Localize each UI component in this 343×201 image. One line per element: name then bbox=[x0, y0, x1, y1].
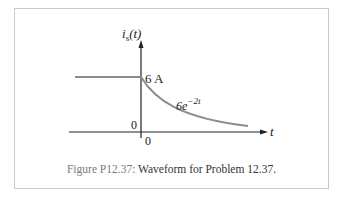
curve-label: 6e−2t bbox=[176, 96, 201, 113]
y-axis-label: is(t) bbox=[122, 26, 141, 43]
y-axis-arrow-icon bbox=[139, 40, 144, 48]
x-zero-label: 0 bbox=[145, 134, 151, 148]
caption-text: Waveform for Problem 12.37. bbox=[135, 163, 276, 175]
figure-caption: Figure P12.37: Waveform for Problem 12.3… bbox=[0, 163, 343, 175]
x-axis-arrow-icon bbox=[260, 130, 268, 135]
y-zero-label: 0 bbox=[131, 118, 137, 132]
peak-value-label: 6 A bbox=[145, 71, 164, 86]
caption-prefix: Figure P12.37: bbox=[67, 163, 135, 175]
x-axis-label: t bbox=[270, 124, 274, 139]
